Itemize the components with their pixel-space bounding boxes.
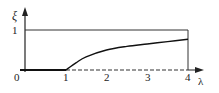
origin-label: 0 (14, 71, 20, 83)
x-tick-2: 2 (104, 71, 110, 83)
y-tick-1: 1 (12, 24, 18, 36)
x-tick-3: 3 (145, 71, 151, 83)
y-axis-label: ξ (12, 9, 18, 23)
x-axis-arrow-icon (195, 67, 204, 73)
xi-curve (66, 39, 188, 70)
x-tick-4: 4 (185, 71, 191, 83)
chart-canvas: ξ 1 0 1 2 3 4 λ (0, 0, 219, 93)
x-tick-1: 1 (63, 71, 69, 83)
x-axis-label: λ (198, 75, 204, 87)
y-axis-arrow-icon (22, 7, 28, 16)
